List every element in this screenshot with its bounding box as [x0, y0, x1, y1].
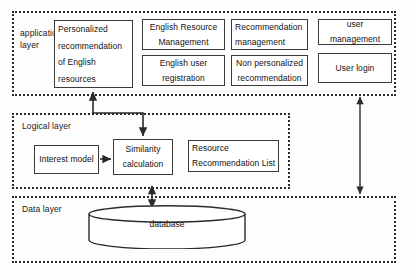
- node-english-resource-management[interactable]: English Resource Management: [142, 19, 225, 50]
- node-user-management[interactable]: user management: [318, 19, 392, 45]
- node-english-user-registration[interactable]: English user registration: [142, 55, 225, 86]
- architecture-diagram: application layer Personalized recommend…: [0, 0, 416, 275]
- data-layer-caption: Data layer: [22, 204, 62, 216]
- node-recommendation-management[interactable]: Recommendation management: [231, 19, 308, 50]
- node-non-personalized-recommendation[interactable]: Non personalized recommendation: [231, 55, 308, 86]
- node-resource-recommendation-list[interactable]: Resource Recommendation List: [188, 140, 279, 172]
- logical-layer-caption: Logical layer: [22, 121, 71, 133]
- node-interest-model[interactable]: Interest model: [34, 145, 99, 174]
- node-similarity-calculation[interactable]: Similarity calculation: [113, 139, 173, 175]
- database-label: database: [88, 219, 246, 229]
- node-user-login[interactable]: User login: [318, 53, 392, 83]
- node-personalized-recommendation[interactable]: Personalized recommendation of English r…: [54, 20, 133, 88]
